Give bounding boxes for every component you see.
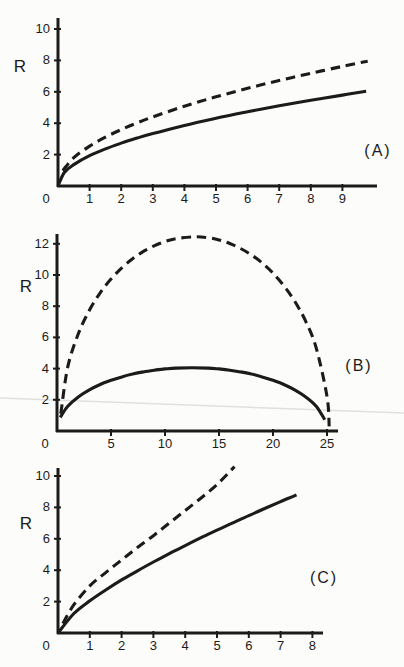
scanned-figure-page: 0123456789246810R(A)051015202524681012R(… [0, 0, 404, 667]
x-tick-label: 15 [212, 436, 226, 451]
x-tick-label: 1 [86, 191, 93, 206]
x-tick-label: 20 [266, 436, 280, 451]
panel-label: (B) [345, 357, 372, 374]
x-tick-label: 0 [42, 638, 49, 653]
panel-c: 012345678246810R(C) [20, 467, 338, 653]
x-tick-label: 5 [107, 436, 114, 451]
x-tick-label: 6 [245, 638, 252, 653]
y-tick-label: 4 [43, 115, 50, 130]
y-tick-label: 4 [42, 361, 49, 376]
y-tick-label: 10 [36, 468, 50, 483]
x-tick-label: 4 [182, 638, 189, 653]
x-tick-label: 4 [181, 191, 188, 206]
y-tick-label: 6 [42, 329, 49, 344]
x-tick-label: 25 [320, 436, 334, 451]
x-tick-label: 1 [86, 638, 93, 653]
x-tick-label: 2 [118, 191, 125, 206]
panel-label: (C) [310, 569, 338, 586]
x-tick-label: 3 [150, 638, 157, 653]
x-tick-label: 8 [309, 638, 316, 653]
y-tick-label: 6 [43, 84, 50, 99]
x-tick-label: 6 [244, 191, 251, 206]
y-tick-label: 4 [43, 562, 50, 577]
solid-curve [60, 368, 325, 420]
y-tick-label: 2 [42, 392, 49, 407]
panel-b: 051015202524681012R(B) [20, 234, 373, 451]
panel-a: 0123456789246810R(A) [14, 18, 392, 206]
x-tick-label: 7 [276, 191, 283, 206]
x-tick-label: 5 [212, 191, 219, 206]
x-tick-label: 10 [158, 436, 172, 451]
y-tick-label: 8 [43, 499, 50, 514]
y-tick-label: 8 [43, 52, 50, 67]
y-tick-label: 2 [43, 594, 50, 609]
panel-label: (A) [364, 142, 391, 159]
x-tick-label: 7 [277, 638, 284, 653]
x-tick-label: 0 [42, 191, 49, 206]
figure-canvas: 0123456789246810R(A)051015202524681012R(… [0, 0, 404, 667]
x-tick-label: 8 [307, 191, 314, 206]
x-tick-label: 5 [213, 638, 220, 653]
dashed-curve [61, 237, 329, 427]
y-axis-label: R [14, 57, 26, 76]
y-axis-label: R [20, 514, 32, 533]
y-tick-label: 6 [43, 531, 50, 546]
y-tick-label: 10 [36, 21, 50, 36]
y-tick-label: 10 [35, 267, 49, 282]
dashed-curve [63, 61, 368, 170]
y-axis-label: R [20, 277, 32, 296]
y-tick-label: 2 [43, 147, 50, 162]
y-tick-label: 8 [42, 298, 49, 313]
x-tick-label: 0 [41, 436, 48, 451]
x-tick-label: 9 [339, 191, 346, 206]
x-tick-label: 2 [118, 638, 125, 653]
x-tick-label: 3 [149, 191, 156, 206]
y-tick-label: 12 [35, 236, 49, 251]
